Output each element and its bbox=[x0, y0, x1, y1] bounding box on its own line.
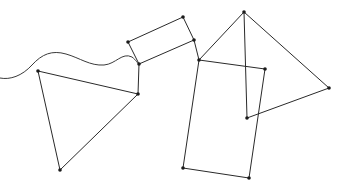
edge-d-a bbox=[128, 42, 139, 64]
vertex-e bbox=[36, 69, 40, 73]
vertex-c bbox=[192, 38, 196, 42]
edge-b-c bbox=[183, 17, 194, 40]
edge-l-m bbox=[244, 12, 329, 88]
vertices bbox=[36, 10, 331, 180]
vertex-m bbox=[327, 86, 331, 90]
edges bbox=[38, 12, 329, 178]
edge-d-f bbox=[138, 64, 139, 94]
edge-k-h bbox=[183, 60, 199, 168]
vertex-j bbox=[247, 176, 251, 180]
edge-a-b bbox=[128, 17, 183, 42]
edge-c-d bbox=[139, 40, 194, 64]
vertex-h bbox=[197, 58, 201, 62]
polygon-diagram bbox=[0, 0, 350, 191]
wavy-curve bbox=[0, 52, 139, 78]
vertex-i bbox=[263, 67, 267, 71]
vertex-g bbox=[58, 168, 62, 172]
edge-e-f bbox=[38, 71, 138, 94]
edge-h-i bbox=[199, 60, 265, 69]
vertex-d bbox=[137, 62, 141, 66]
edge-g-e bbox=[38, 71, 60, 170]
edge-j-k bbox=[183, 168, 249, 178]
edge-n-l bbox=[244, 12, 247, 118]
vertex-n bbox=[245, 116, 249, 120]
vertex-b bbox=[181, 15, 185, 19]
vertex-k bbox=[181, 166, 185, 170]
edge-f-g bbox=[60, 94, 138, 170]
vertex-l bbox=[242, 10, 246, 14]
edge-i-j bbox=[249, 69, 265, 178]
edge-h-l bbox=[199, 12, 244, 60]
edge-c-h bbox=[194, 40, 199, 60]
vertex-f bbox=[136, 92, 140, 96]
vertex-a bbox=[126, 40, 130, 44]
edge-m-n bbox=[247, 88, 329, 118]
